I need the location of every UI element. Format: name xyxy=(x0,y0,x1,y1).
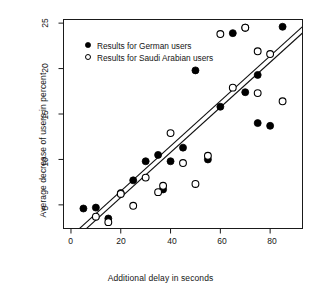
x-tick-label: 20 xyxy=(114,236,128,246)
x-tick-label: 40 xyxy=(165,236,179,246)
x-tick-label: 60 xyxy=(215,236,229,246)
x-tick-label: 80 xyxy=(265,236,279,246)
legend-label-saudi: Results for Saudi Arabian users xyxy=(97,53,213,63)
plot-area-container: 0 20 40 60 80 5 10 15 20 25 Results for … xyxy=(0,0,321,289)
y-axis-title: Average decrease of users in percent xyxy=(38,13,50,277)
chart-figure: 0 20 40 60 80 5 10 15 20 25 Results for … xyxy=(0,0,321,289)
legend-label-german: Results for German users xyxy=(97,41,192,51)
x-tick-label: 0 xyxy=(66,236,75,246)
